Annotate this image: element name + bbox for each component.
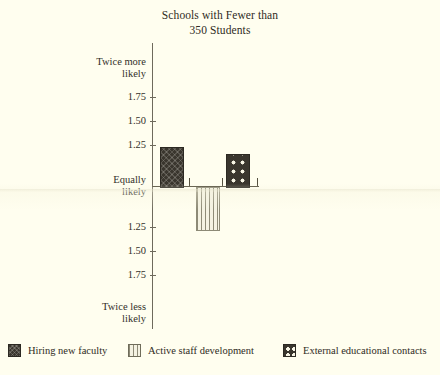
y-label-1-25-up: 1.25 (60, 139, 146, 151)
y-label-1-75-down: 1.75 (60, 269, 146, 281)
y-axis-labels: Twice more likely 1.75 1.50 1.25 Equally… (52, 0, 146, 335)
y-label-twice-less-l1: Twice less (60, 301, 146, 314)
y-label-1-50-up: 1.50 (60, 115, 146, 127)
chart-legend: Hiring new faculty Active staff developm… (0, 340, 440, 364)
bar-active-staff-development (196, 187, 220, 231)
y-label-equally-l2: likely (60, 186, 146, 199)
y-tick-1-75-down (150, 275, 156, 276)
legend-item-external-educational-contacts: External educational contacts (283, 344, 427, 357)
legend-swatch-solid-icon (8, 344, 21, 357)
legend-item-active-staff-development: Active staff development (128, 344, 254, 357)
chart-page: Schools with Fewer than 350 Students Twi… (0, 0, 440, 375)
y-tick-1-25-down (150, 227, 156, 228)
y-label-1-75-up: 1.75 (60, 91, 146, 103)
y-tick-1-50-up (150, 121, 156, 122)
legend-swatch-striped-icon (128, 344, 141, 357)
legend-swatch-dotted-icon (283, 344, 296, 357)
y-label-twice-more-l1: Twice more (60, 56, 146, 69)
legend-label-external-educational-contacts: External educational contacts (303, 345, 427, 356)
y-label-twice-more-l2: likely (60, 68, 146, 81)
x-tick-1 (189, 178, 190, 187)
y-label-equally-l1: Equally (60, 174, 146, 187)
y-tick-1-50-down (150, 251, 156, 252)
y-tick-1-25-up (150, 145, 156, 146)
x-tick-3 (257, 178, 258, 187)
bar-external-educational-contacts (226, 154, 250, 188)
plot-area: Twice more likely 1.75 1.50 1.25 Equally… (0, 0, 440, 335)
legend-label-hiring-new-faculty: Hiring new faculty (28, 345, 107, 356)
y-tick-1-75-up (150, 97, 156, 98)
y-label-twice-less-l2: likely (60, 313, 146, 326)
x-tick-2 (222, 178, 223, 187)
legend-label-active-staff-development: Active staff development (148, 345, 254, 356)
legend-item-hiring-new-faculty: Hiring new faculty (8, 344, 107, 357)
bar-hiring-new-faculty (160, 147, 184, 188)
y-label-1-50-down: 1.50 (60, 245, 146, 257)
y-label-1-25-down: 1.25 (60, 221, 146, 233)
